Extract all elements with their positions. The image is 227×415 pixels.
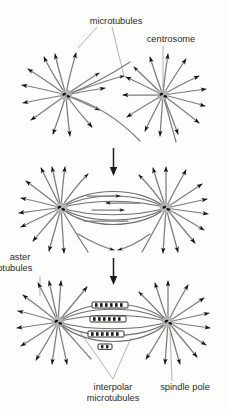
label-centrosome-group: centrosome [147,34,196,88]
label-spindle-pole-group: spindle pole [160,330,210,392]
label-aster-microtubules-group: aster microtubules [0,252,40,296]
centrosome-right-stage1 [157,90,169,101]
stage-1-separating-asters: microtubules centrosome [22,16,206,142]
aster-left-stage1 [22,53,140,141]
chromosome-4 [98,344,112,349]
label-interpolar-line2: microtubules [87,393,140,403]
label-interpolar-line1: interpolar [94,382,133,392]
stage-2-interacting-asters [19,167,208,253]
label-centrosome: centrosome [147,34,196,44]
label-microtubules: microtubules [90,16,143,26]
microtubules-right-stage3 [139,281,210,364]
aster-left-stage2 [19,167,88,253]
transition-arrow-1 [110,148,117,176]
chromosome-3 [88,331,124,337]
spindle-pole-left [52,317,64,328]
centrosome-right-stage2 [160,203,172,214]
label-aster-line2: microtubules [0,263,33,273]
leader-interpolar-left [80,332,113,379]
spindle-assembly-figure: microtubules centrosome [0,0,227,415]
aster-left-stage3 [17,281,91,364]
chromosome-1 [92,302,128,308]
figure-canvas: microtubules centrosome [0,0,227,415]
leader-microtubules-left [78,27,97,48]
leader-interpolar-right [113,338,131,379]
aster-right-stage2 [139,167,208,253]
chromosome-2 [90,316,126,322]
microtubules-left-stage2 [19,167,88,253]
aster-right-stage1 [123,54,206,142]
label-aster-line1: aster [10,252,31,262]
centrosome-left-stage1 [60,90,72,101]
stage-3-bipolar-spindle: interpolar microtubules spindle pole [17,281,210,403]
label-microtubules-group: microtubules [78,16,143,76]
transition-arrow-2 [110,258,117,285]
leader-spindle-pole [170,330,172,381]
microtubules-right-stage2 [139,167,208,253]
spindle-pole-right [162,317,174,328]
interpolar-microtubules-stage2 [61,192,166,251]
label-spindle-pole: spindle pole [160,382,210,392]
aster-right-stage3 [139,281,210,364]
centrosome-left-stage2 [55,203,67,214]
microtubules-left-stage1 [22,53,140,141]
leader-microtubules-right [112,27,124,76]
label-interpolar-microtubules-group: interpolar microtubules [80,332,140,403]
